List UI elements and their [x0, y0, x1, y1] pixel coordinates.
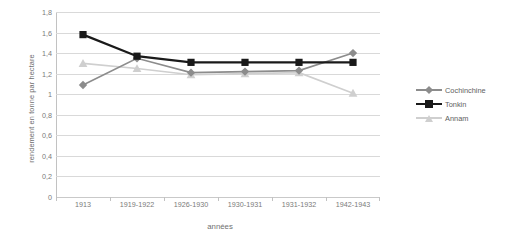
- data-point-marker: [349, 59, 356, 66]
- y-axis-tick-label: 0,2: [6, 172, 52, 181]
- legend-marker: [425, 100, 433, 108]
- legend-item-label: Tonkin: [442, 100, 466, 109]
- legend-marker: [425, 115, 433, 122]
- series-tonkin: [79, 31, 356, 66]
- legend-item-cochinchine[interactable]: Cochinchine: [416, 83, 504, 97]
- legend-item-tonkin[interactable]: Tonkin: [416, 97, 504, 111]
- data-point-marker: [295, 59, 302, 66]
- data-point-marker: [133, 53, 140, 60]
- data-point-marker: [79, 81, 87, 89]
- data-point-marker: [241, 67, 249, 75]
- y-axis-tick-label: 0,8: [6, 110, 52, 119]
- data-point-marker: [349, 49, 357, 57]
- chart-container: rendement en tonne par hectare 00,20,40,…: [0, 0, 507, 245]
- data-point-marker: [79, 31, 86, 38]
- x-axis-tick-labels: 19131919-19221926-19301930-19311931-1932…: [56, 200, 380, 216]
- chart-legend: CochinchineTonkinAnnam: [416, 83, 504, 125]
- legend-item-label: Annam: [442, 114, 468, 123]
- y-axis-tick-label: 0,6: [6, 131, 52, 140]
- y-axis-tick-label: 1,6: [6, 28, 52, 37]
- x-axis-title: années: [150, 222, 290, 231]
- series-line: [83, 35, 353, 63]
- legend-key-icon: [416, 112, 442, 124]
- y-axis-tick-label: 1,4: [6, 49, 52, 58]
- legend-item-annam[interactable]: Annam: [416, 111, 504, 125]
- y-axis-tick-labels: 00,20,40,60,811,21,41,61,8: [4, 12, 52, 197]
- y-axis-tick-label: 1,2: [6, 69, 52, 78]
- series-layer: [56, 12, 380, 197]
- series-cochinchine: [79, 49, 357, 89]
- y-axis-tick-label: 0,4: [6, 151, 52, 160]
- series-line: [83, 53, 353, 85]
- data-point-marker: [187, 59, 194, 66]
- data-point-marker: [187, 68, 195, 76]
- legend-key-icon: [416, 84, 442, 96]
- plot-area: [56, 12, 380, 197]
- series-line: [83, 63, 353, 93]
- y-axis-tick-label: 1: [6, 90, 52, 99]
- y-axis-tick-label: 1,8: [6, 8, 52, 17]
- legend-marker: [425, 86, 433, 94]
- legend-key-icon: [416, 98, 442, 110]
- x-axis-tick-label: 1942-1943: [313, 200, 393, 209]
- legend-item-label: Cochinchine: [442, 86, 486, 95]
- data-point-marker: [241, 59, 248, 66]
